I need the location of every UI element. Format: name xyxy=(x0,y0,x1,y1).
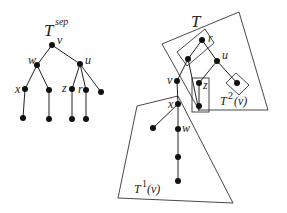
label-r: r xyxy=(78,82,83,96)
node-r xyxy=(83,87,89,93)
node-r xyxy=(199,37,205,43)
node-leaf xyxy=(46,116,52,122)
svg-text:T: T xyxy=(220,94,228,108)
node-w xyxy=(175,126,181,132)
label-r: r xyxy=(208,31,213,45)
left-tree: T sep v w u x z r xyxy=(14,16,104,122)
node-w-child xyxy=(46,87,52,93)
label-u: u xyxy=(85,53,91,67)
label-x: x xyxy=(14,82,21,96)
node-leaf xyxy=(20,115,26,121)
label-v: v xyxy=(57,33,63,47)
node-r-parent xyxy=(185,56,191,62)
label-z: z xyxy=(202,78,208,92)
node-u xyxy=(77,61,83,67)
node-z-child xyxy=(196,103,202,109)
node-v xyxy=(49,42,55,48)
left-tree-title: T xyxy=(44,21,55,40)
subtree1-label: T 1 (v) xyxy=(134,178,160,196)
label-w: w xyxy=(182,121,190,135)
node-x xyxy=(175,101,181,107)
label-x: x xyxy=(167,97,174,111)
node-x xyxy=(22,86,28,92)
label-z: z xyxy=(61,81,67,95)
left-tree-title-sup: sep xyxy=(55,16,68,27)
label-w: w xyxy=(28,53,36,67)
right-tree: T r u v z x xyxy=(118,12,268,203)
svg-text:(v): (v) xyxy=(234,94,247,108)
node-x-child xyxy=(150,125,156,131)
svg-text:(v): (v) xyxy=(147,182,160,196)
subtree2-label: T 2 (v) xyxy=(220,90,247,108)
node-v xyxy=(174,78,180,84)
svg-text:2: 2 xyxy=(228,90,233,101)
label-v: v xyxy=(167,73,173,87)
node-leaf xyxy=(69,116,75,122)
node-z xyxy=(196,80,202,86)
node-leaf xyxy=(175,178,181,184)
node-leaf xyxy=(83,116,89,122)
node-z xyxy=(69,86,75,92)
svg-text:T: T xyxy=(134,182,142,196)
node-u-child xyxy=(234,80,240,86)
diagram-canvas: T sep v w u x z r T xyxy=(0,0,287,213)
node-u xyxy=(214,58,220,64)
node-u-child xyxy=(98,89,104,95)
node-w-child xyxy=(175,154,181,160)
label-u: u xyxy=(222,48,228,62)
